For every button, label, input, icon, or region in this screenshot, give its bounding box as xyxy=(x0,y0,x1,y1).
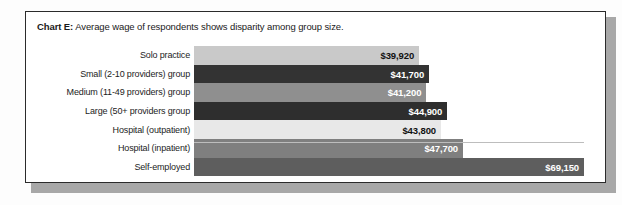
bar: $41,700 xyxy=(194,65,429,84)
bar-value-label: $43,800 xyxy=(402,124,436,135)
chart-figure-container: Chart E: Average wage of respondents sho… xyxy=(0,0,622,205)
bar-category-label: Medium (11-49 providers) group xyxy=(67,87,190,97)
bar-category-label: Hospital (inpatient) xyxy=(118,143,190,153)
bar-value-label: $69,150 xyxy=(545,161,579,172)
bar-value-label: $44,900 xyxy=(409,106,443,117)
bar-category-label: Large (50+ providers group xyxy=(85,106,190,116)
bar: $69,150 xyxy=(194,158,584,177)
bar: $43,800 xyxy=(194,120,441,139)
bar-category-label: Small (2-10 providers) group xyxy=(80,69,190,79)
bar-category-label: Hospital (outpatient) xyxy=(113,125,190,135)
bar-value-label: $41,700 xyxy=(391,68,425,79)
bar-category-label: Self-employed xyxy=(134,162,190,172)
bar-row: Small (2-10 providers) group$41,700 xyxy=(26,65,604,84)
bar-value-label: $41,200 xyxy=(388,87,422,98)
chart-title-lead: Chart E: xyxy=(37,21,73,32)
chart-title-rest: Average wage of respondents shows dispar… xyxy=(73,21,343,32)
chart-frame: Chart E: Average wage of respondents sho… xyxy=(25,11,606,183)
bar-category-label: Solo practice xyxy=(140,50,190,60)
bar: $39,920 xyxy=(194,46,419,65)
bar: $41,200 xyxy=(194,83,426,102)
bar-row: Self-employed$69,150 xyxy=(26,158,604,177)
bar-row: Hospital (outpatient)$43,800 xyxy=(26,120,604,139)
bar-value-label: $47,700 xyxy=(424,143,458,154)
bar-row: Large (50+ providers group$44,900 xyxy=(26,102,604,121)
bar-row: Medium (11-49 providers) group$41,200 xyxy=(26,83,604,102)
bar: $44,900 xyxy=(194,102,447,121)
bar-row: Solo practice$39,920 xyxy=(26,46,604,65)
chart-title: Chart E: Average wage of respondents sho… xyxy=(37,21,344,32)
axis-baseline xyxy=(194,142,584,143)
bar-value-label: $39,920 xyxy=(381,50,415,61)
bar-chart-plot-area: Solo practice$39,920Small (2-10 provider… xyxy=(26,46,604,180)
